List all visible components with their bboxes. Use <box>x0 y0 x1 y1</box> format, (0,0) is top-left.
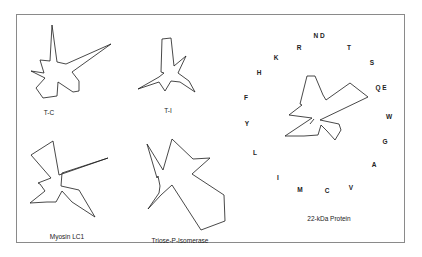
axis-label-l: L <box>253 149 257 156</box>
axis-label-t: T <box>347 44 351 51</box>
axis-label-f: F <box>244 94 248 101</box>
star-plots <box>0 0 422 257</box>
axis-label-v: V <box>349 184 353 191</box>
star-plot-22kda-protein <box>285 76 368 140</box>
star-plot-triose-p-isomerase <box>147 139 225 230</box>
panel-label-myosin-lc1: Myosin LC1 <box>50 233 84 240</box>
panel-label-t-i: T-I <box>164 107 172 114</box>
axis-label-c: C <box>325 187 330 194</box>
axis-label-g: G <box>382 138 387 145</box>
axis-label-a: A <box>372 161 377 168</box>
star-plot-t-i <box>138 38 195 92</box>
axis-label-nd: N D <box>313 32 324 39</box>
axis-label-s: S <box>370 59 374 66</box>
axis-label-i: I <box>277 174 279 181</box>
star-plot-t-c <box>31 25 111 98</box>
panel-label-triose-p-isomerase: Triose-P-Isomerase <box>152 237 209 244</box>
panel-label-22kda-protein: 22-kDa Protein <box>307 215 350 222</box>
axis-label-m: M <box>297 186 302 193</box>
star-plot-myosin-lc1 <box>30 141 108 217</box>
axis-label-h: H <box>257 69 262 76</box>
axis-label-r: R <box>297 44 302 51</box>
axis-label-y: Y <box>245 120 249 127</box>
axis-label-w: W <box>386 113 392 120</box>
panel-label-t-c: T-C <box>44 109 54 116</box>
axis-label-qe: Q E <box>375 84 386 91</box>
axis-label-k: K <box>274 54 279 61</box>
